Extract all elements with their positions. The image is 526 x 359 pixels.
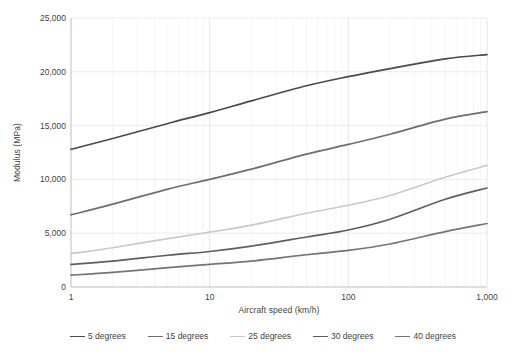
- legend-color-swatch: [70, 336, 85, 337]
- legend-label: 15 degrees: [166, 331, 209, 341]
- legend-item[interactable]: 15 degrees: [148, 331, 209, 341]
- series-line: [71, 165, 487, 253]
- legend-color-swatch: [230, 336, 245, 337]
- legend-color-swatch: [313, 336, 328, 337]
- legend-label: 25 degrees: [248, 331, 291, 341]
- legend-item[interactable]: 5 degrees: [70, 331, 126, 341]
- x-axis-title: Aircraft speed (km/h): [71, 305, 487, 315]
- legend-label: 5 degrees: [88, 331, 126, 341]
- legend-color-swatch: [395, 336, 410, 337]
- series-line: [71, 112, 487, 215]
- legend-item[interactable]: 25 degrees: [230, 331, 291, 341]
- series-line: [71, 55, 487, 150]
- x-tick-label: 10: [205, 292, 214, 302]
- legend-color-swatch: [148, 336, 163, 337]
- x-tick-label: 1,000: [476, 292, 497, 302]
- legend-item[interactable]: 30 degrees: [313, 331, 374, 341]
- legend-item[interactable]: 40 degrees: [395, 331, 456, 341]
- axis-lines: [71, 18, 487, 287]
- chart-legend: 5 degrees15 degrees25 degrees30 degrees4…: [0, 331, 526, 341]
- y-gridlines: [71, 18, 487, 233]
- plot-svg: [71, 18, 487, 287]
- x-tick-label: 100: [341, 292, 355, 302]
- line-chart: Modulus (MPa) 05,00010,00015,00020,00025…: [0, 0, 526, 359]
- legend-label: 40 degrees: [413, 331, 456, 341]
- series-lines: [71, 55, 487, 276]
- legend-label: 30 degrees: [331, 331, 374, 341]
- x-tick-label: 1: [69, 292, 74, 302]
- x-minor-gridlines: [113, 18, 481, 287]
- series-line: [71, 224, 487, 276]
- series-line: [71, 188, 487, 264]
- plot-area: [71, 18, 487, 287]
